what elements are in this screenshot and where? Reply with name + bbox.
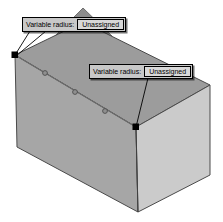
control-point-3[interactable]	[103, 109, 108, 114]
callout-left-value[interactable]: Unassigned	[77, 19, 124, 30]
callout-left-caption: Variable radius:	[23, 18, 77, 31]
control-point-2[interactable]	[73, 90, 78, 95]
control-point-1[interactable]	[43, 71, 48, 76]
callout-right-caption: Variable radius:	[90, 65, 144, 78]
variable-radius-callout-left[interactable]: Variable radius: Unassigned	[22, 17, 126, 32]
screenshot-canvas: Variable radius: Unassigned Variable rad…	[0, 0, 223, 222]
vertex-right[interactable]	[133, 124, 140, 131]
callout-right-value[interactable]: Unassigned	[144, 66, 191, 77]
3d-model-viewport[interactable]	[0, 0, 223, 222]
vertex-left[interactable]	[12, 52, 19, 59]
variable-radius-callout-right[interactable]: Variable radius: Unassigned	[89, 64, 193, 79]
